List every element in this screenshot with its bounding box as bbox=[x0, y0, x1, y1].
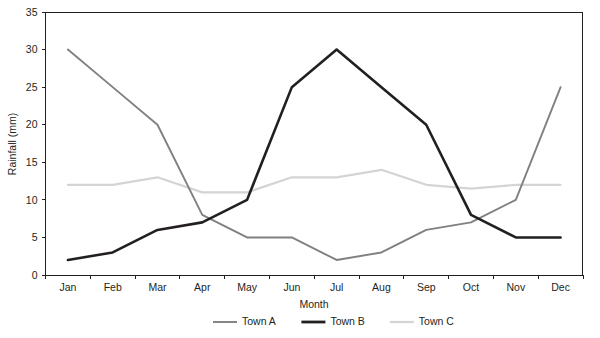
x-axis-tick-label: Jul bbox=[330, 281, 343, 293]
chart-canvas: 05101520253035 JanFebMarAprMayJunJulAugS… bbox=[0, 0, 600, 338]
y-axis-tick-label: 20 bbox=[26, 118, 38, 130]
x-axis-tick-label: May bbox=[237, 281, 258, 293]
y-axis-tick-label: 15 bbox=[26, 156, 38, 168]
legend-label-town-a: Town A bbox=[242, 315, 276, 327]
y-axis-tick-label: 30 bbox=[26, 43, 38, 55]
x-axis-tick-label: Sep bbox=[417, 281, 436, 293]
x-axis-tick-label: Nov bbox=[506, 281, 525, 293]
y-axis-tick-label: 5 bbox=[32, 231, 38, 243]
x-axis-tick-label: Dec bbox=[551, 281, 570, 293]
x-axis-tick-label: Jun bbox=[283, 281, 300, 293]
y-axis-tick-label: 35 bbox=[26, 6, 38, 18]
series-line-town-a bbox=[68, 50, 561, 260]
plot-frame bbox=[46, 12, 584, 276]
y-axis: 05101520253035 bbox=[26, 6, 46, 281]
x-axis-tick-label: Apr bbox=[194, 281, 211, 293]
series-line-town-b bbox=[68, 50, 561, 260]
x-axis-title: Month bbox=[299, 298, 328, 310]
x-axis-tick-label: Jan bbox=[59, 281, 76, 293]
x-axis-tick-label: Mar bbox=[148, 281, 167, 293]
x-axis-tick-label: Aug bbox=[372, 281, 391, 293]
y-axis-tick-label: 10 bbox=[26, 194, 38, 206]
y-axis-tick-label: 25 bbox=[26, 81, 38, 93]
x-axis-tick-label: Feb bbox=[104, 281, 122, 293]
legend-label-town-c: Town C bbox=[419, 315, 454, 327]
rainfall-line-chart: 05101520253035 JanFebMarAprMayJunJulAugS… bbox=[0, 0, 600, 338]
series-lines bbox=[68, 50, 561, 260]
y-axis-tick-label: 0 bbox=[32, 269, 38, 281]
series-line-town-c bbox=[68, 170, 561, 193]
chart-legend: Town ATown BTown C bbox=[213, 315, 454, 327]
legend-label-town-b: Town B bbox=[330, 315, 364, 327]
y-axis-title: Rainfall (mm) bbox=[6, 113, 18, 175]
x-axis: JanFebMarAprMayJunJulAugSepOctNovDec bbox=[46, 275, 584, 293]
x-axis-tick-label: Oct bbox=[463, 281, 479, 293]
